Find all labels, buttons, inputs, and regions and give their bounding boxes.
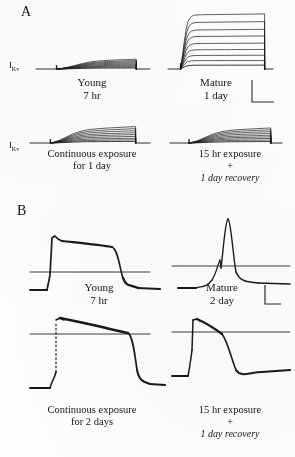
caption-a-young-line1: Young bbox=[48, 76, 136, 89]
panel-letter-a: A bbox=[21, 4, 32, 20]
b-recovery-tail bbox=[262, 370, 290, 372]
a-mature-trace-1 bbox=[181, 22, 265, 69]
b-continuous-tail bbox=[150, 384, 165, 385]
caption-a-continuous-line2: for 1 day bbox=[21, 160, 163, 172]
caption-b-recovery-plus: + bbox=[170, 416, 290, 428]
b-continuous-repol bbox=[128, 333, 137, 370]
a-recovery-trace-8 bbox=[189, 142, 271, 143]
caption-a-mature-line2: 1 day bbox=[172, 89, 260, 102]
b-recovery-late-repol bbox=[236, 370, 262, 374]
caption-b-mature-line2: 2 day bbox=[181, 294, 263, 307]
caption-a-recovery: 15 hr exposure + 1 day recovery bbox=[170, 148, 290, 184]
a-young-trace-8 bbox=[57, 68, 137, 69]
a-recovery-trace-0 bbox=[189, 128, 271, 143]
caption-a-continuous: Continuous exposure for 1 day bbox=[21, 148, 163, 173]
b-mature-foot bbox=[212, 260, 220, 280]
caption-a-recovery-plus: + bbox=[170, 160, 290, 172]
b-continuous-peak bbox=[56, 318, 64, 320]
a-young-trace-7 bbox=[57, 67, 137, 69]
a-recovery-trace-7 bbox=[189, 140, 271, 143]
b-recovery-upstroke bbox=[192, 320, 193, 350]
a-young-trace-4 bbox=[57, 64, 137, 69]
b-mature-notch bbox=[220, 260, 221, 268]
b-recovery-plateau bbox=[197, 319, 222, 334]
caption-a-young-line2: 7 hr bbox=[48, 89, 136, 102]
b-continuous-late-repol bbox=[137, 370, 150, 384]
a-recovery-trace-1 bbox=[189, 130, 271, 143]
b-recovery-foot bbox=[188, 350, 192, 376]
caption-a-young: Young 7 hr bbox=[48, 76, 136, 102]
a-recovery-trace-5 bbox=[189, 137, 271, 143]
b-mature-spike-fall bbox=[228, 219, 236, 272]
figure-canvas: A B IKv IKv Young 7 hr Mature 1 day Cont… bbox=[0, 0, 295, 457]
a-young-trace-1 bbox=[57, 61, 137, 69]
a-mature-trace-8 bbox=[181, 65, 265, 69]
a-mature-trace-3 bbox=[181, 36, 265, 69]
caption-b-continuous-line1: Continuous exposure bbox=[21, 404, 163, 416]
trace-layer bbox=[0, 0, 295, 457]
a-recovery-trace-2 bbox=[189, 132, 271, 143]
a-mature-trace-5 bbox=[181, 49, 265, 69]
caption-a-recovery-line3: 1 day recovery bbox=[170, 172, 290, 184]
a-mature-trace-4 bbox=[181, 43, 265, 69]
caption-a-continuous-line1: Continuous exposure bbox=[21, 148, 163, 160]
a-recovery-trace-4 bbox=[189, 135, 271, 143]
a-young-trace-2 bbox=[57, 62, 137, 69]
ikv-label-bottom-subscript: Kv bbox=[12, 146, 19, 152]
a-mature-trace-0 bbox=[181, 14, 265, 69]
a-continuous-trace-6 bbox=[50, 138, 135, 143]
caption-b-young: Young 7 hr bbox=[55, 281, 143, 307]
a-young-trace-6 bbox=[57, 66, 137, 69]
a-mature-trace-6 bbox=[181, 55, 265, 69]
a-continuous-trace-5 bbox=[50, 136, 135, 143]
a-young-trace-3 bbox=[57, 63, 137, 69]
a-continuous-trace-4 bbox=[50, 135, 135, 143]
caption-a-mature-line1: Mature bbox=[172, 76, 260, 89]
caption-b-continuous-line2: for 2 days bbox=[21, 416, 163, 428]
a-young-trace-5 bbox=[57, 65, 137, 69]
b-young-notch bbox=[112, 247, 123, 278]
ikv-label-top: IKv bbox=[9, 60, 19, 72]
caption-b-mature: Mature 2 day bbox=[181, 281, 263, 307]
a-mature-trace-2 bbox=[181, 29, 265, 69]
caption-b-continuous: Continuous exposure for 2 days bbox=[21, 404, 163, 429]
scale-bar-panel-b bbox=[265, 285, 281, 304]
a-continuous-trace-8 bbox=[50, 141, 135, 143]
caption-a-recovery-line1: 15 hr exposure bbox=[170, 148, 290, 160]
a-recovery-trace-3 bbox=[189, 133, 271, 143]
caption-b-recovery: 15 hr exposure + 1 day recovery bbox=[170, 404, 290, 440]
a-continuous-trace-1 bbox=[50, 129, 135, 143]
caption-a-mature: Mature 1 day bbox=[172, 76, 260, 102]
a-continuous-trace-2 bbox=[50, 131, 135, 143]
b-recovery-repol bbox=[222, 334, 236, 370]
panel-letter-b: B bbox=[17, 203, 27, 219]
b-young-plateau bbox=[62, 241, 112, 247]
a-continuous-trace-7 bbox=[50, 140, 135, 143]
paper-grain bbox=[0, 0, 295, 457]
ikv-label-top-subscript: Kv bbox=[12, 66, 19, 72]
a-young-trace-0 bbox=[57, 59, 137, 69]
a-continuous-trace-0 bbox=[50, 127, 135, 143]
b-recovery-peak bbox=[193, 319, 200, 321]
caption-b-mature-line1: Mature bbox=[181, 281, 263, 294]
b-continuous-plateau bbox=[60, 318, 128, 333]
ikv-label-bottom: IKv bbox=[9, 140, 19, 152]
a-recovery-trace-6 bbox=[189, 138, 271, 143]
caption-b-young-line2: 7 hr bbox=[55, 294, 143, 307]
a-continuous-trace-3 bbox=[50, 133, 135, 143]
caption-b-recovery-line3: 1 day recovery bbox=[170, 428, 290, 440]
caption-b-young-line1: Young bbox=[55, 281, 143, 294]
a-mature-trace-7 bbox=[181, 60, 265, 69]
caption-b-recovery-line1: 15 hr exposure bbox=[170, 404, 290, 416]
b-mature-spike-rise bbox=[221, 219, 228, 268]
b-continuous-foot bbox=[50, 372, 56, 388]
